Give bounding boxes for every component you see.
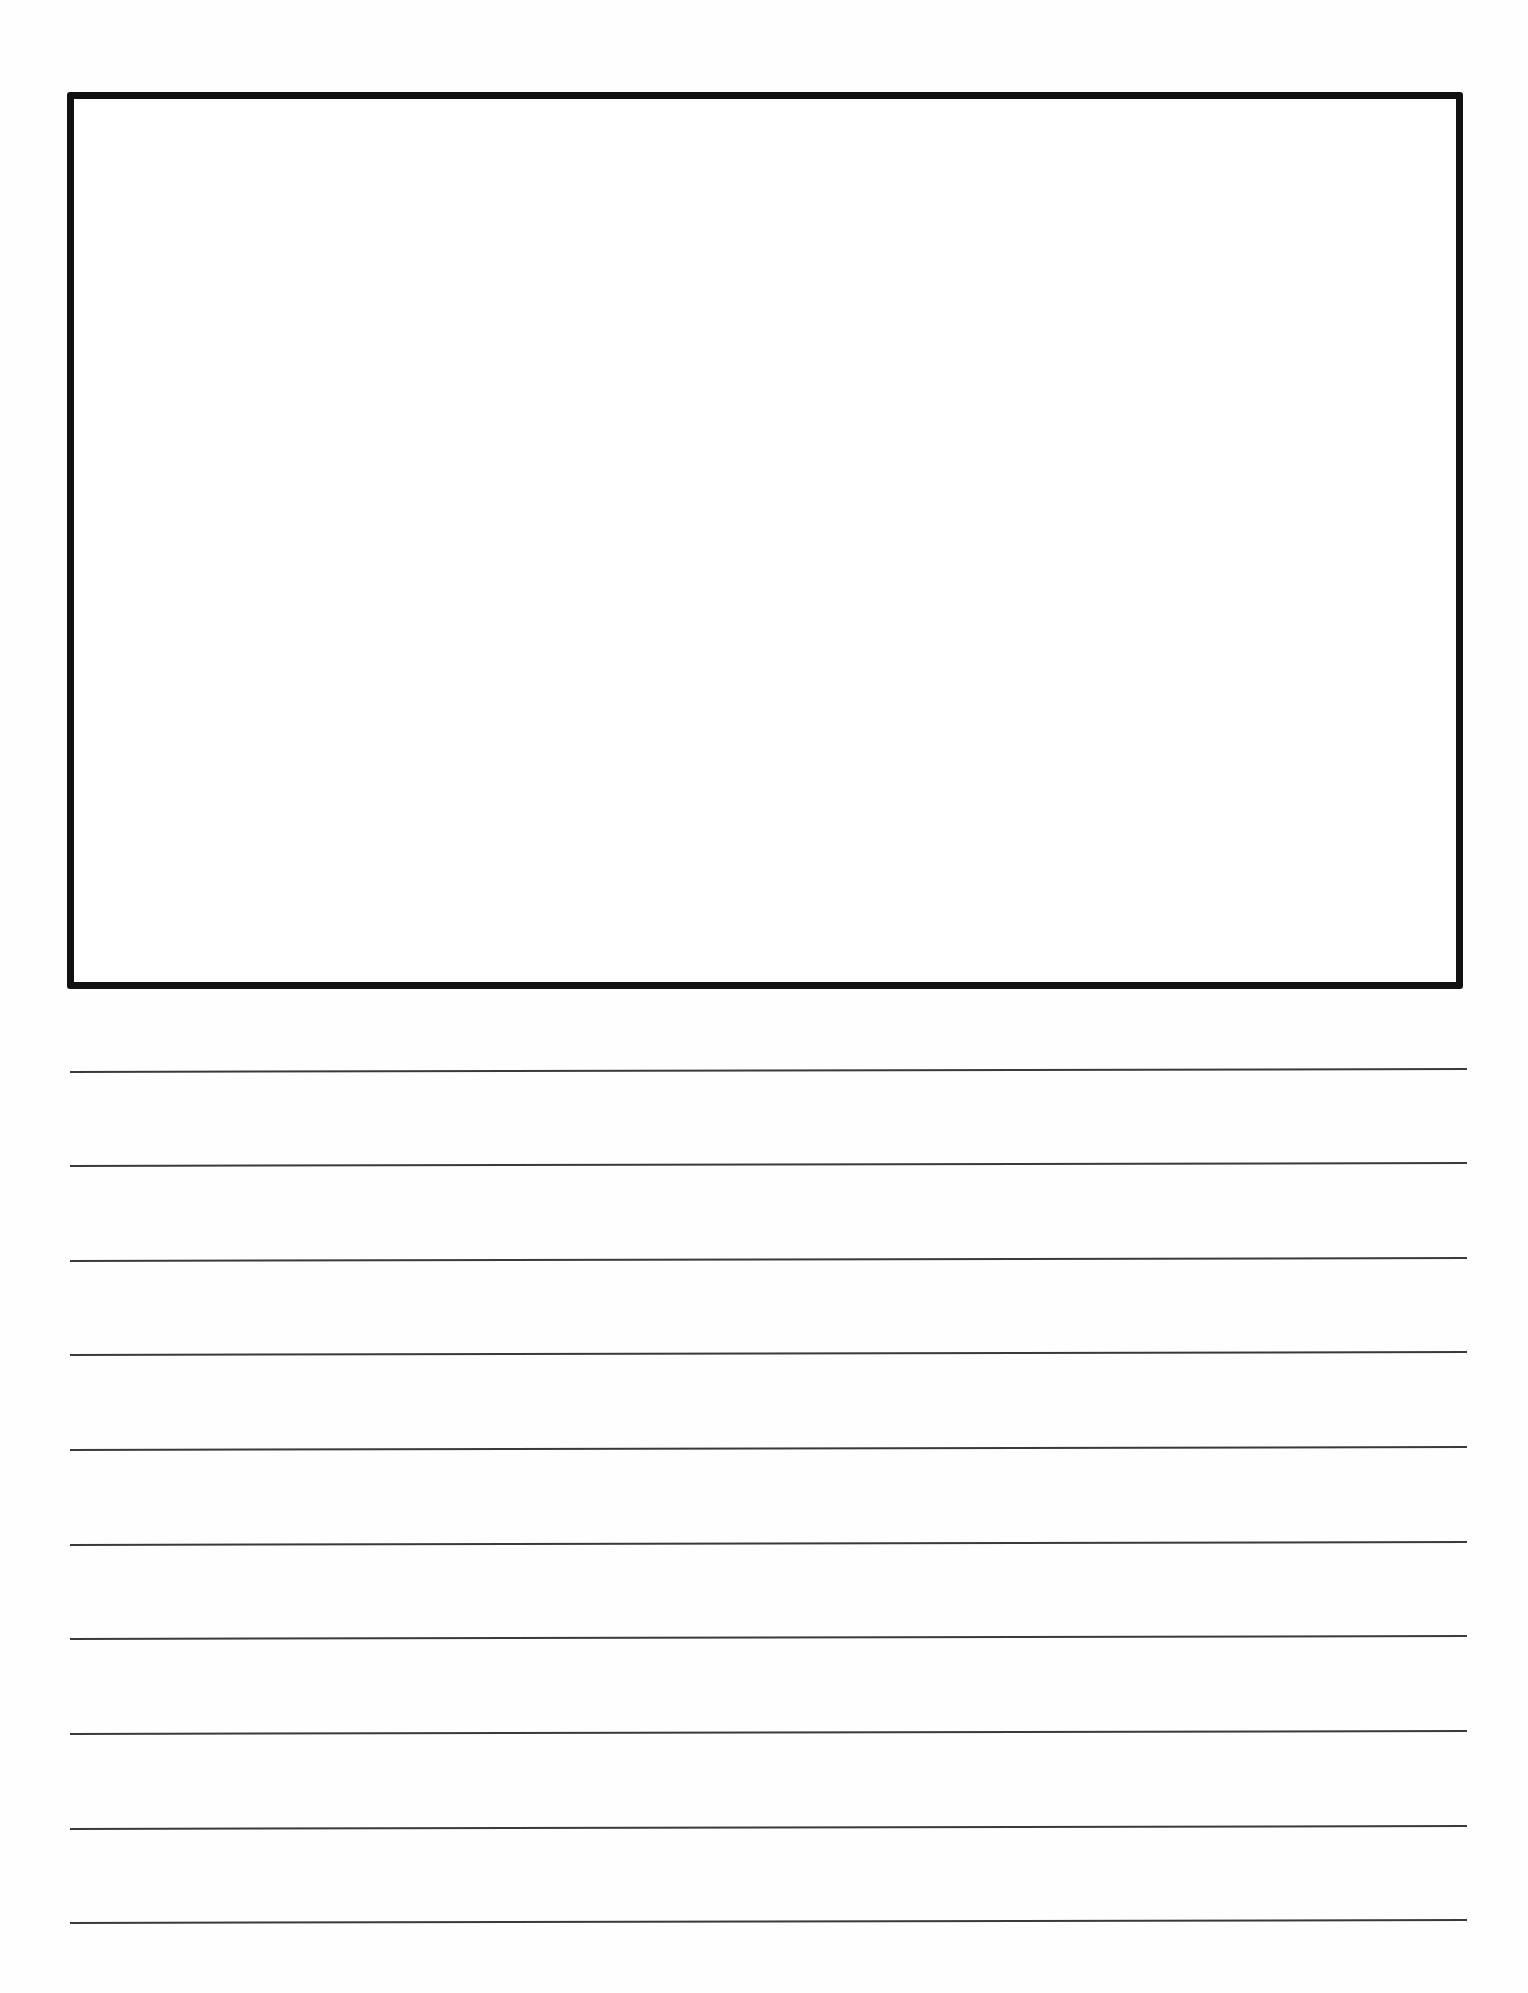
writing-lines xyxy=(0,0,1528,1993)
writing-line xyxy=(70,1068,1467,1073)
writing-line xyxy=(70,1257,1467,1262)
writing-line xyxy=(70,1446,1467,1451)
writing-line xyxy=(70,1541,1467,1546)
writing-line xyxy=(70,1635,1467,1640)
writing-line xyxy=(70,1919,1467,1924)
writing-line xyxy=(70,1162,1467,1167)
journal-page xyxy=(0,0,1528,1993)
writing-line xyxy=(70,1730,1467,1735)
writing-line xyxy=(70,1351,1467,1356)
writing-line xyxy=(70,1825,1467,1830)
